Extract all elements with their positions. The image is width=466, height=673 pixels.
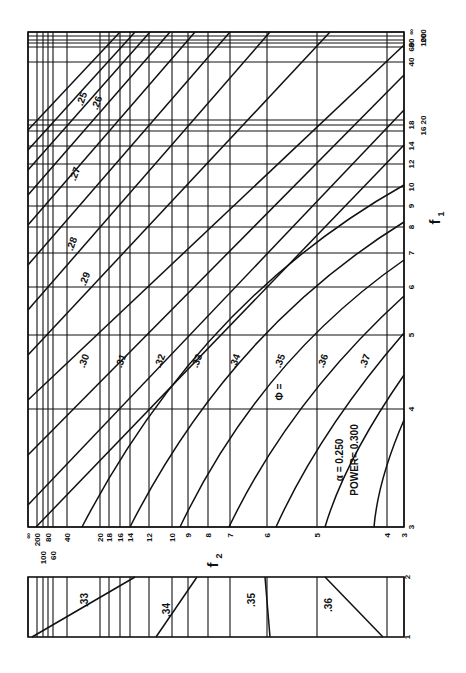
f1-tick-label: ∞: [407, 29, 416, 35]
phi-curve: [28, 32, 230, 265]
phi-curve-label: .32: [152, 352, 167, 369]
inset-phi-label: .33: [79, 593, 90, 607]
f1-tick-label: 18: [407, 120, 416, 129]
f2-tick-label: 20: [96, 532, 105, 541]
phi-curve: [374, 420, 404, 527]
f1-tick-label: 14: [407, 141, 416, 150]
f1-tick-label: 5: [407, 332, 416, 337]
f2-tick-label: 9: [184, 532, 193, 537]
f1-tick-label: 7: [407, 250, 416, 255]
f1-tick-label: 10: [407, 182, 416, 191]
f1-tick-label: 20: [419, 115, 428, 124]
f1-tick-label: 40: [407, 57, 416, 66]
f2-tick-label: 40: [63, 532, 72, 541]
phi-curve-label: .27: [67, 165, 82, 182]
f2-tick-label: 12: [145, 532, 154, 541]
alpha-annotation: α = 0.250: [334, 438, 345, 481]
phi-curve-label: .29: [77, 270, 92, 287]
f2-tick-label: ∞: [24, 533, 33, 539]
f1-tick-label: 3: [407, 524, 416, 529]
inset-f1-tick-2: 2: [403, 574, 412, 579]
phi-curve: [28, 32, 330, 355]
inset-f1-tick-1: 1: [403, 634, 412, 639]
phi-curve: [28, 110, 404, 505]
f2-tick-label: 80: [44, 532, 53, 541]
f1-tick-label: 9: [407, 203, 416, 208]
phi-curve: [28, 32, 150, 170]
f1-axis-title: f: [426, 219, 443, 225]
f1-tick-label: 8: [407, 224, 416, 229]
phi-curve-label: .26: [89, 94, 104, 111]
inset-phi-label: .34: [161, 603, 172, 617]
phi-curve-label: .30: [76, 352, 91, 369]
phi-curve: [276, 333, 404, 527]
f1-tick-label: 6: [407, 284, 416, 289]
f2-tick-label: 4: [383, 532, 392, 537]
f2-axis-title: f: [204, 562, 221, 568]
f2-tick-label: 5: [313, 532, 322, 537]
f2-tick-label: 200: [33, 532, 42, 546]
phi-curve-label: .37: [357, 352, 372, 369]
f1-tick-label: 4: [407, 406, 416, 411]
phi-curve: [28, 75, 404, 455]
f1-tick-label: 12: [407, 159, 416, 168]
f2-tick-label: 60: [49, 550, 58, 559]
phi-symbol: Φ =: [274, 383, 285, 400]
f1-tick-label: 16: [419, 126, 428, 135]
axis-labels: ∞2001008060402018161412109876543∞2001008…: [24, 29, 446, 568]
f2-tick-label: 3: [400, 532, 409, 537]
phi-curve-label: .25: [74, 90, 89, 107]
f2-tick-label: 6: [263, 532, 272, 537]
f1-tick-label: 100: [419, 33, 428, 47]
f1-axis-sub: 1: [436, 211, 446, 216]
f2-tick-label: 10: [168, 532, 177, 541]
inset-phi-label: .35: [246, 593, 257, 607]
f2-tick-label: 8: [204, 532, 213, 537]
power-chart: ∞2001008060402018161412109876543∞2001008…: [0, 0, 466, 673]
f2-tick-label: 18: [105, 532, 114, 541]
inset-panel: .33.34.35.3621: [28, 574, 412, 639]
f1-tick-label: 60: [407, 42, 416, 51]
f2-tick-label: 100: [39, 550, 48, 564]
f2-tick-label: 16: [116, 532, 125, 541]
f2-tick-label: 14: [126, 532, 135, 541]
phi-curve-label: .31: [113, 352, 128, 369]
power-annotation: POWER= 0.300: [349, 424, 360, 496]
inset-phi-label: .36: [323, 598, 334, 612]
f2-axis-sub: 2: [214, 553, 224, 558]
f2-tick-label: 7: [226, 532, 235, 537]
